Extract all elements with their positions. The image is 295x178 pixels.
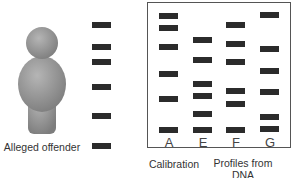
band xyxy=(226,101,245,107)
band xyxy=(193,127,212,133)
band xyxy=(193,111,212,117)
band xyxy=(226,41,245,47)
band xyxy=(92,143,111,149)
band xyxy=(193,93,212,99)
band xyxy=(92,44,111,50)
lane-label-f: F xyxy=(226,135,246,150)
lane-label-e: E xyxy=(193,135,213,150)
band xyxy=(260,46,279,52)
band xyxy=(260,114,279,120)
lane-label-g: G xyxy=(260,135,280,150)
band xyxy=(193,81,212,87)
band xyxy=(226,127,245,133)
band xyxy=(193,37,212,43)
band xyxy=(159,25,178,31)
band xyxy=(226,88,245,94)
database-label: Profiles from DNA database xyxy=(212,157,274,178)
band xyxy=(92,59,111,65)
band xyxy=(260,68,279,74)
band xyxy=(159,44,178,50)
lane-label-a: A xyxy=(159,135,179,150)
band xyxy=(159,127,178,133)
band xyxy=(159,71,178,77)
database-label-line1: Profiles from xyxy=(212,157,274,169)
band xyxy=(260,12,279,18)
band xyxy=(92,22,111,28)
band xyxy=(92,84,111,90)
band xyxy=(260,89,279,95)
band xyxy=(260,126,279,132)
band xyxy=(226,59,245,65)
band xyxy=(159,13,178,19)
band xyxy=(193,57,212,63)
band xyxy=(92,113,111,119)
band xyxy=(226,22,245,28)
person-figure-icon xyxy=(14,26,70,136)
offender-label: Alleged offender xyxy=(2,141,82,153)
band xyxy=(159,96,178,102)
database-label-line2: DNA database xyxy=(212,169,274,178)
calibration-label: Calibration xyxy=(148,158,200,170)
